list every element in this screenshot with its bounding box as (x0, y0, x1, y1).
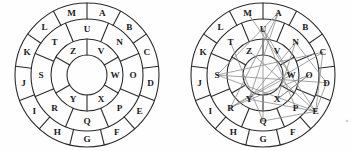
letter-B: B (126, 22, 132, 32)
letter-R: R (227, 103, 234, 113)
outer-ring-divider (100, 129, 104, 145)
inner-ring-divider (104, 57, 118, 65)
wheel-left-svg: ABCDEFGHIJKLMNOPQRSTUVWXYZ (0, 0, 176, 151)
letter-S: S (38, 70, 43, 80)
letter-F: F (114, 127, 120, 137)
artifact-speck (346, 120, 349, 123)
wheel-right-glyphs: ABCDEFGHIJKLMNOPQRSTUVWXYZ (197, 8, 330, 144)
letter-Q: Q (83, 116, 90, 126)
letter-Z: Z (246, 46, 252, 56)
letter-X: X (98, 94, 105, 104)
middle-ring-divider (211, 54, 229, 62)
outer-ring-divider (16, 66, 32, 68)
outer-ring-divider (276, 129, 280, 145)
letter-U: U (260, 24, 267, 34)
letter-L: L (41, 22, 47, 32)
outer-ring-divider (192, 66, 208, 68)
middle-ring-divider (277, 23, 285, 41)
wheel-left-glyphs: ABCDEFGHIJKLMNOPQRSTUVWXYZ (21, 8, 154, 144)
letter-B: B (302, 22, 308, 32)
inner-ring-divider (56, 85, 70, 93)
inner-ring-divider (104, 85, 118, 93)
letter-I: I (33, 106, 37, 116)
letter-Y: Y (246, 94, 253, 104)
letter-G: G (83, 134, 90, 144)
letter-K: K (24, 47, 32, 57)
letter-F: F (290, 127, 296, 137)
letter-W: W (286, 70, 296, 80)
letter-O: O (129, 70, 136, 80)
cipher-wheel-right: ABCDEFGHIJKLMNOPQRSTUVWXYZ (176, 0, 351, 151)
outer-ring-divider (300, 117, 311, 129)
letter-D: D (147, 78, 154, 88)
outer-ring-divider (246, 129, 250, 145)
outer-ring-divider (139, 95, 154, 101)
letter-M: M (243, 8, 252, 18)
letter-T: T (227, 37, 233, 47)
letter-K: K (200, 47, 208, 57)
letter-Q: Q (259, 116, 266, 126)
middle-ring-divider (35, 89, 53, 97)
middle-ring-divider (66, 108, 74, 126)
middle-ring-divider (242, 108, 250, 126)
letter-V: V (98, 46, 105, 56)
letter-T: T (51, 37, 57, 47)
letter-H: H (230, 127, 237, 137)
letter-H: H (54, 127, 61, 137)
letter-R: R (51, 103, 58, 113)
letter-P: P (117, 103, 123, 113)
outer-ring-divider (309, 34, 322, 43)
letter-U: U (84, 24, 91, 34)
core-circle (67, 55, 107, 95)
middle-ring-divider (296, 89, 314, 97)
outer-ring-divider (196, 95, 211, 101)
letter-P: P (293, 103, 299, 113)
outer-ring-divider (20, 95, 35, 101)
outer-ring-divider (230, 11, 237, 25)
letter-I: I (209, 106, 213, 116)
outer-ring-divider (54, 11, 61, 25)
outer-ring-divider (204, 34, 217, 43)
figure-canvas: ABCDEFGHIJKLMNOPQRSTUVWXYZ ABCDEFGHIJKLM… (0, 0, 351, 151)
letter-W: W (110, 70, 120, 80)
middle-ring-divider (211, 89, 229, 97)
letter-J: J (21, 78, 26, 88)
cipher-wheel-left: ABCDEFGHIJKLMNOPQRSTUVWXYZ (0, 0, 176, 151)
letter-E: E (137, 106, 143, 116)
letter-M: M (67, 8, 76, 18)
letter-N: N (292, 37, 299, 47)
letter-X: X (274, 94, 281, 104)
overlay-segment (249, 99, 316, 111)
wheel-right-svg: ABCDEFGHIJKLMNOPQRSTUVWXYZ (176, 0, 351, 151)
outer-ring-divider (113, 11, 120, 25)
overlay-segment (263, 111, 316, 121)
letter-C: C (144, 47, 151, 57)
letter-D: D (323, 78, 330, 88)
middle-ring-divider (101, 23, 109, 41)
middle-ring-divider (66, 23, 74, 41)
outer-ring-divider (215, 117, 226, 129)
letter-V: V (274, 46, 281, 56)
middle-ring-outer-circle (31, 19, 143, 131)
letter-L: L (217, 22, 223, 32)
middle-ring-divider (35, 54, 53, 62)
letter-E: E (313, 106, 319, 116)
letter-G: G (259, 134, 266, 144)
middle-ring-divider (120, 89, 138, 97)
middle-ring-divider (101, 108, 109, 126)
outer-ring-divider (289, 11, 296, 25)
letter-Z: Z (70, 46, 76, 56)
inner-ring-divider (56, 57, 70, 65)
letter-O: O (305, 70, 312, 80)
letter-S: S (214, 70, 219, 80)
letter-J: J (197, 78, 202, 88)
outer-ring-divider (39, 117, 50, 129)
letter-A: A (99, 8, 106, 18)
outer-ring-divider (28, 34, 41, 43)
middle-ring-divider (120, 54, 138, 62)
outer-ring-divider (124, 117, 135, 129)
outer-ring-divider (133, 34, 146, 43)
letter-N: N (116, 37, 123, 47)
letter-Y: Y (70, 94, 77, 104)
outer-ring-divider (143, 66, 159, 68)
